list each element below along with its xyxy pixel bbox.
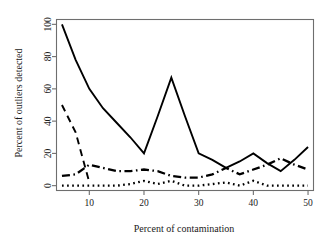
- y-tick-label: 40: [44, 116, 54, 126]
- line-chart-canvas: 1020304050 020406080100 Percent of conta…: [0, 0, 336, 239]
- x-tick-label: 50: [303, 198, 313, 208]
- y-tick-label: 100: [44, 17, 54, 32]
- x-tick-label: 30: [194, 198, 204, 208]
- x-tick-label: 20: [139, 198, 149, 208]
- x-axis-title: Percent of contamination: [134, 223, 235, 234]
- x-tick-label: 40: [249, 198, 259, 208]
- y-tick-label: 0: [44, 183, 54, 188]
- x-tick-label: 10: [85, 198, 95, 208]
- y-tick-label: 20: [44, 148, 54, 158]
- y-tick-label: 60: [44, 84, 54, 94]
- y-axis-title: Percent of outliers detected: [13, 48, 24, 157]
- y-tick-label: 80: [44, 52, 54, 62]
- chart-figure: 1020304050 020406080100 Percent of conta…: [0, 0, 336, 239]
